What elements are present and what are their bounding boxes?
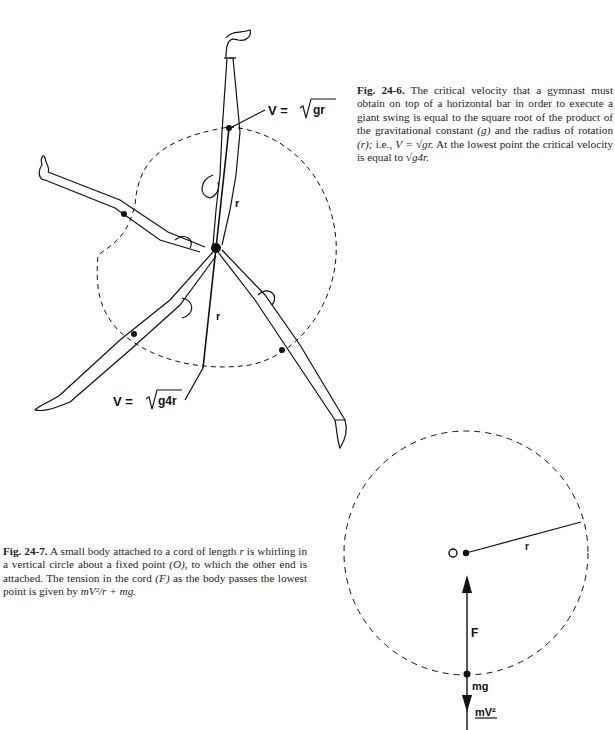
caption-text: and the radius of rotation (490, 124, 613, 136)
label-velocity-top: V = gr (268, 99, 336, 118)
label-centripetal: mV² (475, 706, 496, 718)
gymnast-lower-left (35, 252, 216, 411)
caption-text: i.e., (373, 138, 396, 150)
label-weight: mg (472, 680, 489, 692)
svg-text:g4r: g4r (158, 394, 177, 408)
caption-fig-24-7: Fig. 24-7. A small body attached to a co… (3, 545, 307, 599)
label-velocity-bottom: V = g4r (113, 390, 182, 409)
caption-text: A small body attached to a cord of lengt… (48, 545, 240, 557)
svg-text:gr: gr (313, 103, 325, 117)
caption-formula-bottom: √g4r. (406, 151, 429, 163)
label-radius: r (525, 541, 529, 552)
caption-symbol-g: (g) (477, 124, 490, 136)
cg-dot-lower-left (131, 331, 137, 337)
radius-line-bottom (203, 248, 216, 368)
caption-formula-top: V = √gr. (395, 138, 433, 150)
svg-text:V =: V = (268, 103, 288, 118)
caption-fig-24-6-number: Fig. 24-6. (357, 84, 405, 96)
caption-symbol-r: (r); (357, 138, 373, 150)
center-dot (463, 550, 469, 556)
caption-symbol-f: (F) (155, 572, 169, 584)
weight-arrowhead-icon (462, 695, 472, 712)
tension-arrowhead-icon (462, 575, 472, 593)
center-label-o (449, 549, 457, 557)
leader-bottom (185, 368, 203, 400)
cg-dot-lower-right (279, 347, 285, 353)
caption-symbol-o: (O), (169, 558, 187, 570)
label-tension: F (471, 626, 478, 640)
caption-formula: mV²/r + mg. (81, 585, 136, 597)
label-radius-lower: r (216, 310, 221, 322)
caption-fig-24-6: Fig. 24-6. The critical velocity that a … (357, 84, 613, 164)
caption-fig-24-7-number: Fig. 24-7. (3, 545, 48, 557)
gymnast-top (202, 30, 250, 245)
label-radius-upper: r (235, 197, 240, 209)
figure-24-6-drawing (35, 30, 346, 448)
radius-line (466, 522, 581, 553)
cg-dot-left (121, 211, 127, 217)
pivot-bar-dot (211, 243, 221, 253)
cg-dot-top (226, 125, 232, 131)
gymnast-left (39, 156, 205, 252)
body-dot (464, 671, 471, 678)
leader-top (232, 110, 265, 127)
svg-text:V =: V = (113, 394, 133, 409)
